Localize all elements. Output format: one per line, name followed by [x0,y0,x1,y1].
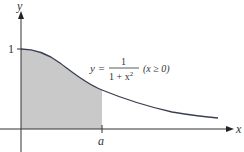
x-axis-arrow-icon [226,126,234,132]
equation-lhs: y = [89,62,105,74]
function-graph: y x 1 a y = 1 1 + x2 (x ≥ 0) [0,0,244,152]
shaded-area [21,49,102,129]
equation-condition: (x ≥ 0) [143,63,170,75]
equation-label: y = 1 1 + x2 (x ≥ 0) [89,56,170,82]
y-axis-label: y [16,0,23,13]
equation-denominator: 1 + x2 [109,70,134,82]
exponent: 2 [130,70,134,78]
y-tick-label: 1 [8,42,14,56]
x-tick-label: a [98,134,104,148]
x-axis-label: x [235,122,242,136]
equation-numerator: 1 [121,56,126,67]
